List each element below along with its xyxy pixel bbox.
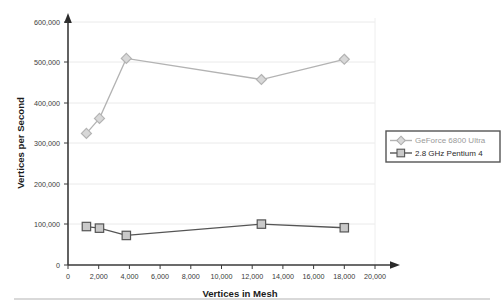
x-axis-title: Vertices in Mesh: [202, 288, 277, 299]
chart-figure: 600,000 500,000 400,000 300,000 200,000 …: [0, 0, 504, 307]
x-tick-label-0: 0: [66, 272, 70, 281]
y-tick-label-400000: 400,000: [34, 99, 60, 108]
y-tick-label-300000: 300,000: [34, 139, 60, 148]
square-marker-icon: [95, 224, 103, 232]
y-tick-label-100000: 100,000: [34, 220, 60, 229]
chart-legend: GeForce 6800 Ultra 2.8 GHz Pentium 4: [386, 131, 500, 162]
y-tick-label-600000: 600,000: [34, 18, 60, 27]
x-tick-label-18000: 18,000: [333, 272, 355, 281]
x-tick-labels: 0 2,000 4,000 6,000 8,000 10,000 12,000 …: [66, 272, 386, 281]
x-tick-label-4000: 4,000: [120, 272, 138, 281]
y-tick-label-200000: 200,000: [34, 180, 60, 189]
x-tick-label-12000: 12,000: [241, 272, 263, 281]
x-tick-label-16000: 16,000: [303, 272, 325, 281]
x-tick-label-10000: 10,000: [211, 272, 233, 281]
x-axis-arrow-icon: [390, 261, 400, 269]
square-marker-icon: [397, 149, 405, 157]
y-tick-labels: 600,000 500,000 400,000 300,000 200,000 …: [34, 18, 60, 270]
vertices-per-second-line-chart: 600,000 500,000 400,000 300,000 200,000 …: [0, 0, 504, 307]
legend-label-cpu: 2.8 GHz Pentium 4: [415, 149, 483, 158]
legend-entry-28-ghz-pentium-4[interactable]: 2.8 GHz Pentium 4: [390, 149, 483, 158]
x-tick-label-6000: 6,000: [151, 272, 169, 281]
y-axis-title: Vertices per Second: [15, 97, 26, 189]
square-marker-icon: [82, 222, 90, 230]
y-tick-label-500000: 500,000: [34, 58, 60, 67]
square-marker-icon: [122, 231, 130, 239]
square-marker-icon: [257, 220, 265, 228]
x-tick-label-14000: 14,000: [272, 272, 294, 281]
legend-label-gpu: GeForce 6800 Ultra: [415, 136, 486, 145]
x-tick-label-2000: 2,000: [90, 272, 108, 281]
y-tick-label-0: 0: [56, 261, 60, 270]
x-tick-label-8000: 8,000: [182, 272, 200, 281]
x-tick-label-20000: 20,000: [364, 272, 386, 281]
square-marker-icon: [340, 224, 348, 232]
